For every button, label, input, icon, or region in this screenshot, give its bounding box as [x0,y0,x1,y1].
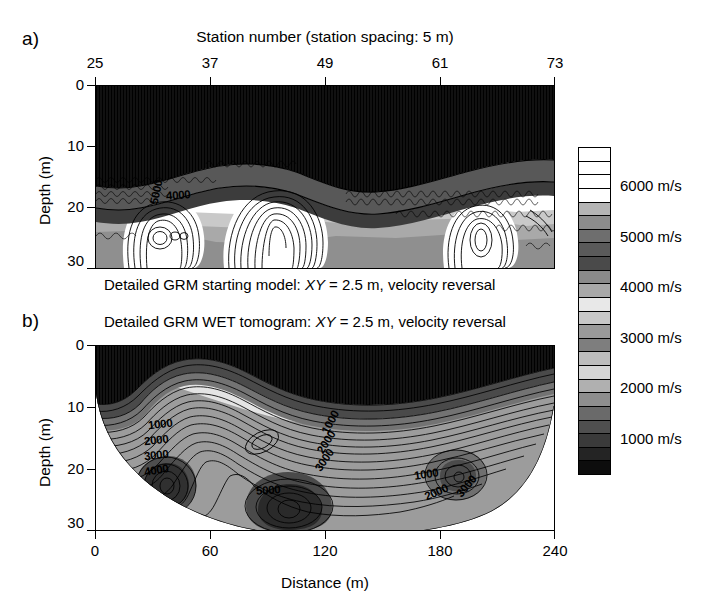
panel-b-tick-bottom-4 [554,531,555,539]
panel-a-xtick-61: 61 [420,54,460,71]
panel-b-caption: Detailed GRM WET tomogram: XY = 2.5 m, v… [104,313,506,330]
colorbar-label-6000: 6000 m/s [620,177,682,194]
panel-b-tick-left-0 [87,345,95,346]
panel-a-ytick-0: 0 [48,76,84,93]
panel-b-tick-left-3 [87,530,95,531]
panel-b-caption-xy: XY [315,313,335,330]
colorbar-band-20 [579,421,610,434]
panel-b-xtick-180: 180 [420,542,460,559]
colorbar-band-13 [579,325,610,338]
panel-a-tick-top-2 [325,77,326,85]
panel-b-tick-bottom-0 [95,531,96,539]
panel-a-ytick-10: 10 [48,137,84,154]
colorbar-band-14 [579,339,610,352]
colorbar-band-8 [579,257,610,270]
colorbar-band-17 [579,380,610,393]
panel-b-ytick-0: 0 [48,336,84,353]
panel-b-contour-label-3000-left: 3000 [143,448,169,462]
panel-a-tick-top-4 [554,77,555,85]
panel-a-caption-xy: XY [305,276,325,293]
colorbar-label-3000: 3000 m/s [620,329,682,346]
panel-b-tick-bottom-2 [325,531,326,539]
colorbar-band-5 [579,216,610,229]
colorbar-label-4000: 4000 m/s [620,278,682,295]
panel-a-tick-top-3 [440,77,441,85]
panel-b-tick-left-2 [87,469,95,470]
panel-a-contour-label-4000: 4000 [166,188,191,202]
colorbar-band-21 [579,434,610,447]
colorbar-band-4 [579,203,610,216]
panel-b-caption-post: = 2.5 m, velocity reversal [335,313,505,330]
panel-b-tick-bottom-1 [210,531,211,539]
colorbar-band-3 [579,189,610,202]
panel-a-top-axis-title: Station number (station spacing: 5 m) [95,28,555,46]
panel-b-contour-label-2000-left: 2000 [143,433,169,447]
panel-a-tick-left-0 [87,85,95,86]
panel-a-caption: Detailed GRM starting model: XY = 2.5 m,… [104,276,495,293]
panel-b-contour-label-5000: 5000 [256,483,281,497]
panel-a-tick-left-3 [87,268,95,269]
panel-a-xtick-37: 37 [190,54,230,71]
colorbar-band-12 [579,312,610,325]
panel-b-xtick-0: 0 [75,542,115,559]
colorbar-band-16 [579,366,610,379]
panel-a-tick-left-1 [87,146,95,147]
panel-a-ylabel: Depth (m) [36,156,54,225]
panel-a-caption-post: = 2.5 m, velocity reversal [325,276,495,293]
colorbar-band-7 [579,243,610,256]
colorbar-band-15 [579,352,610,365]
panel-b-letter: b) [22,310,39,332]
colorbar-band-23 [579,461,610,474]
colorbar-label-5000: 5000 m/s [620,228,682,245]
panel-a-plot: 5000 4000 [95,85,555,269]
panel-b-ylabel: Depth (m) [36,418,54,487]
colorbar-label-2000: 2000 m/s [620,379,682,396]
colorbar-band-1 [579,162,610,175]
colorbar-band-2 [579,175,610,188]
colorbar-band-6 [579,230,610,243]
panel-a-letter: a) [22,28,39,50]
colorbar-band-11 [579,298,610,311]
panel-a-caption-pre: Detailed GRM starting model: [104,276,305,293]
panel-a-xtick-25: 25 [75,54,115,71]
panel-a-xtick-73: 73 [535,54,575,71]
panel-a-ytick-30: 30 [48,252,84,269]
panel-b-contour-label-1000-left: 1000 [147,417,173,431]
figure-root: a) Station number (station spacing: 5 m)… [0,0,712,614]
colorbar-band-22 [579,448,610,461]
colorbar-band-0 [579,148,610,161]
panel-a-xtick-49: 49 [305,54,345,71]
colorbar-band-19 [579,407,610,420]
velocity-colorbar [578,147,611,475]
panel-b-xtick-120: 120 [305,542,345,559]
panel-b-xtick-240: 240 [535,542,575,559]
panel-b-ytick-30: 30 [48,514,84,531]
panel-a-tick-top-1 [210,77,211,85]
colorbar-band-10 [579,284,610,297]
panel-b-tick-bottom-3 [440,531,441,539]
colorbar-band-18 [579,393,610,406]
colorbar-band-9 [579,271,610,284]
panel-b-tick-left-1 [87,407,95,408]
panel-a-tick-top-0 [95,77,96,85]
panel-b-bottom-axis-title: Distance (m) [95,574,555,592]
panel-b-xtick-60: 60 [190,542,230,559]
panel-a-contour-image [96,86,554,268]
panel-a-tick-left-2 [87,207,95,208]
panel-b-ytick-10: 10 [48,398,84,415]
panel-b-plot: 1000 2000 3000 4000 5000 1000 2000 3000 … [95,345,555,531]
colorbar-label-1000: 1000 m/s [620,430,682,447]
panel-b-caption-pre: Detailed GRM WET tomogram: [104,313,315,330]
